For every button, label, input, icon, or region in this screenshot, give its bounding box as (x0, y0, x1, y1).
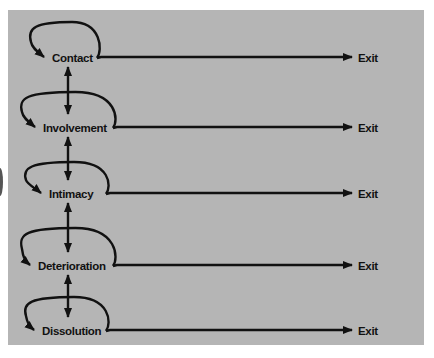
exit-arrow-deterioration (113, 265, 352, 266)
stage-label-intimacy: Intimacy (49, 188, 94, 200)
stage-label-contact: Contact (52, 52, 93, 64)
exit-label-contact: Exit (358, 52, 378, 64)
stage-label-deterioration: Deterioration (38, 260, 106, 272)
exit-arrow-contact (97, 57, 352, 58)
exit-label-involvement: Exit (358, 122, 378, 134)
stage-label-involvement: Involvement (43, 122, 107, 134)
stage-label-dissolution: Dissolution (42, 325, 102, 337)
exit-label-intimacy: Exit (358, 188, 378, 200)
exit-arrow-involvement (113, 127, 352, 128)
page-edge-shadow (0, 150, 4, 210)
exit-arrow-dissolution (106, 330, 352, 331)
exit-arrow-intimacy (106, 193, 352, 194)
exit-label-dissolution: Exit (358, 325, 378, 337)
exit-label-deterioration: Exit (358, 260, 378, 272)
relationship-stages-diagram: Contact Involvement Intimacy Deteriorati… (0, 0, 434, 358)
